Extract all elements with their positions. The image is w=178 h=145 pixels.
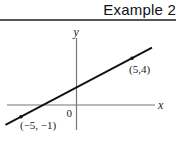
y-axis-label: y xyxy=(73,25,80,39)
origin-label: 0 xyxy=(67,107,73,119)
line-graph: x y 0 (−5, −1)(5,4) xyxy=(0,0,178,145)
data-point-label-0: (−5, −1) xyxy=(20,119,57,132)
x-axis-label: x xyxy=(157,98,164,112)
data-point-1 xyxy=(130,56,134,60)
points-layer: (−5, −1)(5,4) xyxy=(19,56,150,131)
series-line-0 xyxy=(5,48,152,125)
series-layer xyxy=(5,48,152,125)
data-point-label-1: (5,4) xyxy=(129,63,150,76)
